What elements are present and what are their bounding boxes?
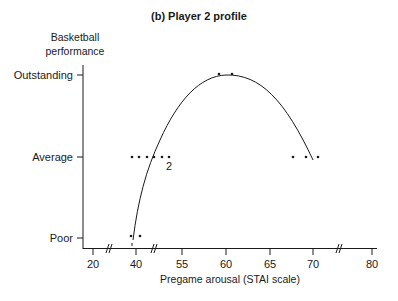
data-points: [130, 73, 320, 238]
svg-text:80: 80: [366, 258, 378, 270]
point-average: [146, 156, 149, 159]
point-average: [305, 156, 308, 159]
svg-text:70: 70: [307, 258, 319, 270]
point-average: [161, 156, 164, 159]
point-average: [138, 156, 141, 159]
svg-text:65: 65: [264, 258, 276, 270]
y-ticks: Outstanding Average Poor: [14, 69, 83, 244]
point-poor: [130, 235, 133, 238]
point-average: [131, 156, 134, 159]
point-outstanding: [231, 73, 234, 76]
point-average: [168, 156, 171, 159]
x-tick-labels: 20 40 55 60 65 70 80: [87, 258, 378, 270]
point-average: [292, 156, 295, 159]
count-annotation: 2: [166, 160, 172, 172]
fit-curve: [133, 75, 313, 240]
point-average: [317, 156, 320, 159]
y-tick-outstanding: Outstanding: [14, 69, 73, 81]
point-average: [153, 156, 156, 159]
svg-text:55: 55: [176, 258, 188, 270]
svg-text:20: 20: [87, 258, 99, 270]
y-tick-average: Average: [32, 151, 73, 163]
point-outstanding: [218, 73, 221, 76]
plot-area: Outstanding Average Poor 20 40 55 60 65 …: [0, 0, 398, 301]
svg-text:40: 40: [130, 258, 142, 270]
point-poor: [139, 235, 142, 238]
x-ticks: [93, 249, 372, 255]
svg-text:60: 60: [220, 258, 232, 270]
y-tick-poor: Poor: [50, 232, 74, 244]
